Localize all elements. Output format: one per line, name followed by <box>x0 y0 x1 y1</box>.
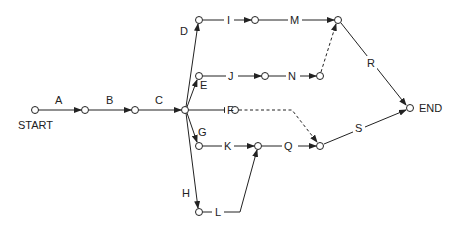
label-R: R <box>367 57 375 69</box>
label-L: L <box>215 206 221 218</box>
label-Q: Q <box>284 140 293 152</box>
label-J: J <box>228 70 234 82</box>
start-label: START <box>18 119 53 131</box>
edge-E <box>187 80 197 107</box>
node-I <box>252 17 259 24</box>
nodes <box>32 17 414 216</box>
edges <box>38 20 406 212</box>
node-D <box>196 17 203 24</box>
label-F: F <box>227 104 234 116</box>
node-G <box>196 143 203 150</box>
label-I: I <box>227 14 230 26</box>
edge-L <box>203 150 257 212</box>
label-K: K <box>224 140 232 152</box>
label-C: C <box>155 94 163 106</box>
edge-G <box>187 113 197 142</box>
label-S: S <box>355 122 362 134</box>
dummy-F-to-Q <box>239 110 317 142</box>
node-2 <box>82 107 89 114</box>
label-gaps <box>212 13 377 219</box>
node-3 <box>132 107 139 114</box>
node-J <box>262 73 269 80</box>
label-N: N <box>288 70 296 82</box>
label-M: M <box>290 14 299 26</box>
node-N <box>317 73 324 80</box>
node-M <box>335 17 342 24</box>
label-B: B <box>106 94 113 106</box>
dummy-N-to-M <box>321 24 336 72</box>
node-start <box>32 107 39 114</box>
node-K <box>255 143 262 150</box>
label-E: E <box>200 79 207 91</box>
label-D: D <box>180 25 188 37</box>
node-H <box>196 209 203 216</box>
end-label: END <box>419 102 442 114</box>
node-end <box>407 105 414 112</box>
label-H: H <box>182 187 190 199</box>
node-hub <box>182 107 189 114</box>
label-G: G <box>198 126 207 138</box>
node-Q <box>317 143 324 150</box>
label-A: A <box>55 94 63 106</box>
network-diagram: START END A B C D E F G H I M J N K Q L … <box>0 0 460 233</box>
